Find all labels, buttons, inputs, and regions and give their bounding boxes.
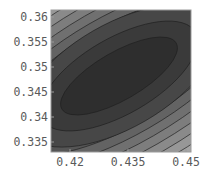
y-axis: 0.36 0.355 0.35 0.345 0.34 0.335	[13, 10, 54, 149]
x-tick-label: 0.45	[172, 155, 200, 169]
contour-plot: 0.36 0.355 0.35 0.345 0.34 0.335 0.42 0.…	[0, 0, 209, 171]
y-tick-label: 0.335	[13, 135, 48, 149]
y-tick-label: 0.34	[20, 110, 48, 124]
y-tick-label: 0.345	[13, 85, 48, 99]
y-tick-label: 0.36	[20, 10, 48, 24]
y-tick-label: 0.35	[20, 60, 48, 74]
x-tick-label: 0.42	[56, 155, 84, 169]
y-tick-label: 0.355	[13, 35, 48, 49]
x-tick-label: 0.435	[111, 155, 146, 169]
